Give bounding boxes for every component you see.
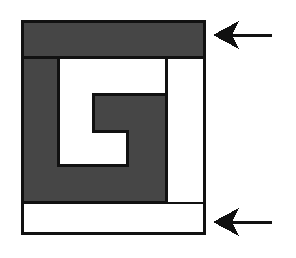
figure-container (0, 0, 296, 258)
region-bottom-band (22, 202, 204, 233)
region-top-band (22, 21, 204, 57)
spiral-figure-svg (0, 0, 296, 258)
region-right-light-column (166, 57, 204, 202)
arrow-bottom-shaft (232, 221, 272, 224)
arrow-top-shaft (232, 34, 272, 37)
